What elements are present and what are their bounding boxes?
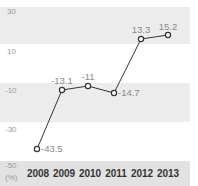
y-tick-neg30: -30	[5, 125, 17, 134]
x-label-2011: 2011	[105, 168, 127, 179]
data-label-2011: -14.7	[118, 87, 140, 98]
data-label-2008: -43.5	[41, 143, 63, 154]
data-label-2009: -13.1	[51, 75, 73, 86]
y-tick-30: 30	[7, 7, 16, 16]
band-neg10-neg30	[0, 83, 190, 122]
data-label-2013: 15.2	[159, 21, 178, 32]
x-label-2012: 2012	[131, 168, 154, 179]
y-tick-10: 10	[7, 47, 16, 56]
data-label-2012: 13.3	[132, 24, 151, 35]
y-unit-label: (%)	[5, 173, 18, 182]
data-point-2010	[85, 83, 90, 88]
x-label-2008: 2008	[27, 168, 50, 179]
y-tick-neg50: -50	[5, 161, 17, 170]
data-point-2013	[165, 32, 170, 37]
data-point-2012	[138, 36, 143, 41]
x-label-2010: 2010	[79, 168, 102, 179]
line-chart: 30 10 -10 -30 -50 (%) 2008 2009 2010 201…	[0, 0, 198, 186]
data-point-2009	[59, 87, 64, 92]
y-tick-neg10: -10	[5, 86, 17, 95]
data-label-2010: -11	[81, 71, 94, 82]
x-label-2009: 2009	[53, 168, 76, 179]
data-point-2011	[111, 90, 116, 95]
data-point-2008	[34, 146, 39, 151]
x-label-2013: 2013	[157, 168, 180, 179]
